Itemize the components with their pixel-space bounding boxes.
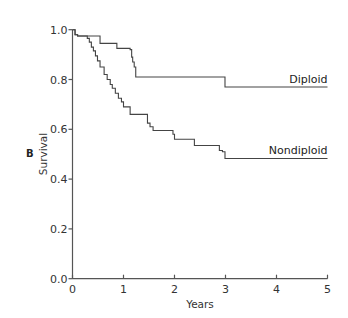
curve-nondiploid [73,30,328,159]
x-axis-title: Years [185,298,214,310]
x-tick-label: 2 [171,283,178,296]
panel-label: B [26,148,34,159]
series-label-diploid: Diploid [289,73,327,86]
x-tick-label: 5 [324,283,331,296]
curves [73,30,328,159]
y-tick-label: 0.0 [50,273,68,286]
y-tick-label: 0.8 [50,74,68,87]
labels: B Survival Years DiploidNondiploid [26,73,328,310]
x-tick-label: 3 [222,283,229,296]
y-axis-title: Survival [37,133,49,175]
survival-chart: 0123450.00.20.40.60.81.0 B Survival Year… [0,0,348,318]
axes: 0123450.00.20.40.60.81.0 [50,24,331,296]
y-tick-label: 0.2 [50,223,68,236]
series-label-nondiploid: Nondiploid [269,144,328,157]
x-tick-label: 1 [120,283,127,296]
y-tick-label: 0.6 [50,123,68,136]
x-tick-label: 0 [69,283,76,296]
y-tick-label: 1.0 [50,24,68,37]
y-tick-label: 0.4 [50,173,68,186]
x-tick-label: 4 [273,283,280,296]
